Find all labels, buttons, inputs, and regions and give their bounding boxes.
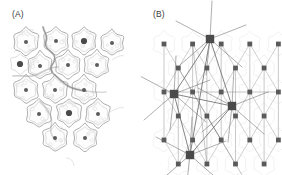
lattice-line xyxy=(207,116,250,175)
nucleus xyxy=(54,39,58,43)
nucleus-marked xyxy=(81,38,87,44)
lattice-node-small xyxy=(247,90,252,95)
lattice-node-small xyxy=(219,138,224,143)
lattice-node-large xyxy=(228,102,236,110)
lattice-node-small xyxy=(276,90,281,95)
chord-edge xyxy=(156,137,190,155)
lattice-node-small xyxy=(276,42,281,47)
nucleus-marked xyxy=(66,110,72,116)
lattice-line xyxy=(250,140,264,164)
lattice-node-large xyxy=(186,151,194,159)
lattice-node-small xyxy=(247,138,252,143)
lattice-node-small xyxy=(176,162,181,167)
lattice-line xyxy=(221,44,235,68)
lattice-line xyxy=(264,92,278,116)
lattice-node-large xyxy=(206,35,214,43)
lattice-line xyxy=(236,140,250,164)
nucleus xyxy=(95,63,99,67)
chord-edge xyxy=(141,76,174,94)
lattice-line xyxy=(236,68,250,92)
nucleus xyxy=(110,41,114,45)
lattice-line xyxy=(264,44,278,68)
panel-a: (A) xyxy=(0,0,141,175)
lattice-node-small xyxy=(190,138,195,143)
lattice-line xyxy=(164,140,178,164)
figure-container: (A) (B) xyxy=(0,0,282,175)
nucleus xyxy=(66,63,70,67)
chord-layer xyxy=(141,1,268,175)
lattice-node-small xyxy=(176,114,181,119)
lattice-node-small xyxy=(233,162,238,167)
lattice-node-small xyxy=(190,42,195,47)
lattice-node-small xyxy=(262,114,267,119)
nucleus-free xyxy=(17,61,23,67)
chord-edge xyxy=(210,1,212,39)
lattice-node-small xyxy=(205,114,210,119)
panel-b-triangular-lattice-icon xyxy=(141,0,282,175)
lattice-node-small xyxy=(162,138,167,143)
nucleus xyxy=(83,136,87,140)
nucleus xyxy=(82,88,86,92)
lattice-node-small xyxy=(233,114,238,119)
lattice-node-small xyxy=(205,162,210,167)
panel-a-cell-tissue-icon xyxy=(0,0,141,175)
lattice-line xyxy=(264,116,278,140)
lattice-line xyxy=(207,92,221,116)
lattice-line xyxy=(250,92,264,116)
lattice-node-small xyxy=(219,90,224,95)
lattice-node-small xyxy=(233,66,238,71)
lattice-line xyxy=(264,68,278,92)
nucleus xyxy=(53,136,57,140)
lattice-node-small xyxy=(176,66,181,71)
lattice-line xyxy=(236,44,250,68)
nucleus xyxy=(24,88,28,92)
nucleus xyxy=(96,112,100,116)
lattice-node-small xyxy=(262,162,267,167)
nucleus xyxy=(37,112,41,116)
lattice-node-small xyxy=(190,90,195,95)
chord-edge xyxy=(232,106,264,134)
lattice-line xyxy=(164,68,178,92)
nucleus xyxy=(53,88,57,92)
nucleus xyxy=(38,64,42,68)
lattice-node-small xyxy=(205,66,210,71)
chord-edge xyxy=(176,21,210,39)
lattice-node-small xyxy=(247,42,252,47)
lattice-node-small xyxy=(262,66,267,71)
lattice-line xyxy=(250,68,264,92)
lattice-line xyxy=(264,140,278,164)
lattice-line xyxy=(250,44,264,68)
panel-b: (B) xyxy=(141,0,282,175)
lattice-node-small xyxy=(276,138,281,143)
lattice-node-small xyxy=(219,42,224,47)
lattice-node-large xyxy=(170,90,178,98)
lattice-node-small xyxy=(162,42,167,47)
nucleus xyxy=(24,40,28,44)
lattice-node-small xyxy=(162,90,167,95)
chord-edge xyxy=(144,94,174,120)
